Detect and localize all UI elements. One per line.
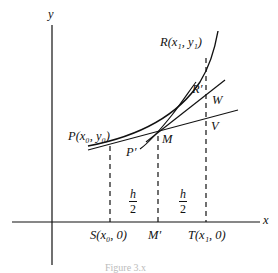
point-T-label: T(x₁, 0) xyxy=(188,229,226,242)
point-R-label: R(x₁, y₁) xyxy=(160,36,202,49)
fraction-numerator: h xyxy=(129,188,137,202)
point-M-prime-label: M′ xyxy=(148,229,161,242)
point-M-label: M xyxy=(162,133,172,146)
y-axis-label: y xyxy=(48,8,54,21)
point-P-prime-label: P′ xyxy=(126,146,136,159)
fraction-numerator: h xyxy=(179,188,187,202)
x-axis-label: x xyxy=(263,214,269,227)
point-W-label: W xyxy=(212,94,222,107)
point-S-label: S(x₀, 0) xyxy=(90,229,127,242)
point-P-label: P(x₀, y₀) xyxy=(68,130,110,143)
point-V-label: V xyxy=(211,120,219,133)
interval-fraction-right: h 2 xyxy=(179,188,187,215)
figure-caption: Figure 3.x xyxy=(105,262,146,273)
interval-fraction-left: h 2 xyxy=(129,188,137,215)
fraction-denominator: 2 xyxy=(180,202,186,215)
fraction-denominator: 2 xyxy=(130,202,136,215)
point-R-prime-label: R′ xyxy=(192,83,202,96)
